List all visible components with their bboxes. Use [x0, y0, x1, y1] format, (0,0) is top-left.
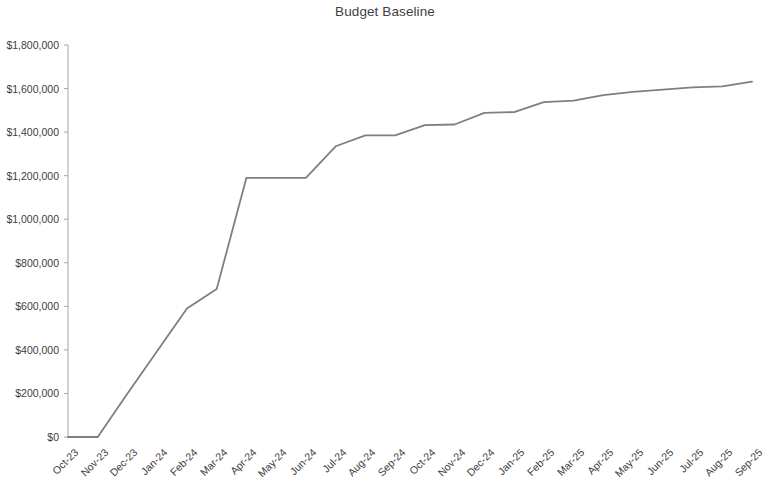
data-series-line-0 — [68, 82, 752, 437]
y-axis-tick-label: $1,400,000 — [0, 126, 59, 138]
y-axis-tick-label: $200,000 — [0, 387, 59, 399]
y-axis-tick-label: $1,000,000 — [0, 213, 59, 225]
y-axis-tick-label: $600,000 — [0, 300, 59, 312]
y-axis-tick-label: $800,000 — [0, 257, 59, 269]
y-axis-tick-label: $400,000 — [0, 344, 59, 356]
y-axis-tick-label: $0 — [0, 431, 59, 443]
chart-container: Budget Baseline $0$200,000$400,000$600,0… — [0, 0, 770, 500]
line-chart-plot — [0, 0, 770, 500]
y-axis-tick-label: $1,600,000 — [0, 83, 59, 95]
y-axis-tick-label: $1,800,000 — [0, 39, 59, 51]
y-axis-tick-label: $1,200,000 — [0, 170, 59, 182]
